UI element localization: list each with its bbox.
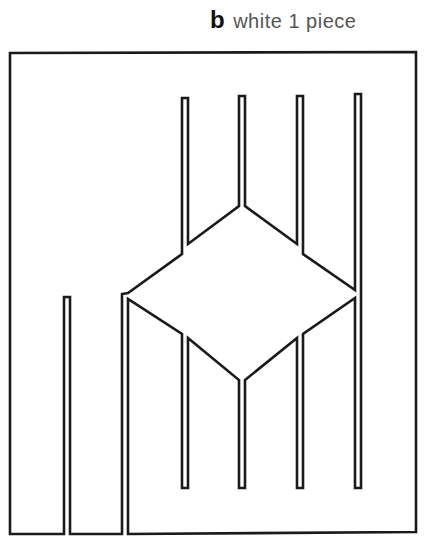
cutting-pattern-diagram <box>0 0 425 554</box>
piece-outline <box>10 52 416 534</box>
